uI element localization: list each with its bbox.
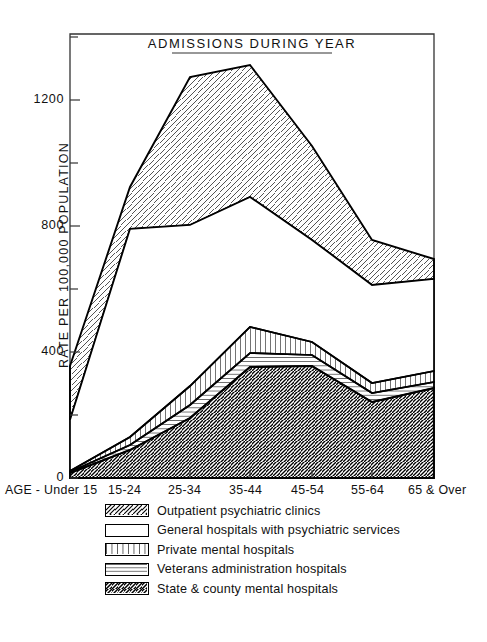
chart-legend: Outpatient psychiatric clinics General h… — [105, 501, 435, 599]
legend-item-state-and-county-mental-hospitals: State & county mental hospitals — [105, 579, 435, 599]
y-tick-label-1200: 1200 — [8, 92, 64, 106]
legend-swatch-diagonal-dense-backslash-icon — [105, 582, 149, 595]
y-tick-label-0: 0 — [8, 470, 64, 484]
x-tick-label-55-64: 55-64 — [351, 483, 384, 497]
legend-item-private-mental-hospitals: Private mental hospitals — [105, 540, 435, 560]
legend-item-general-hospitals-with-psychiatric-services: General hospitals with psychiatric servi… — [105, 521, 435, 541]
x-tick-label-under-15: Under 15 — [44, 483, 97, 497]
x-tick-label-15-24: 15-24 — [108, 483, 141, 497]
legend-item-veterans-administration-hospitals: Veterans administration hospitals — [105, 560, 435, 580]
legend-label: General hospitals with psychiatric servi… — [157, 523, 400, 537]
y-tick-label-800: 800 — [8, 218, 64, 232]
legend-item-outpatient-psychiatric-clinics: Outpatient psychiatric clinics — [105, 501, 435, 521]
legend-label: Outpatient psychiatric clinics — [157, 504, 320, 518]
x-tick-label-25-34: 25-34 — [168, 483, 201, 497]
legend-swatch-diagonal-sparse-slash-icon — [105, 504, 149, 517]
legend-swatch-vertical-lines-icon — [105, 543, 149, 556]
chart-title: ADMISSIONS DURING YEAR — [148, 36, 356, 51]
chart-page: RATE PER 100,000 POPULATION — [0, 0, 487, 642]
legend-label: State & county mental hospitals — [157, 582, 338, 596]
chart-title-group: ADMISSIONS DURING YEAR — [148, 36, 356, 53]
chart-area: RATE PER 100,000 POPULATION — [0, 0, 487, 500]
x-tick-label-35-44: 35-44 — [229, 483, 262, 497]
chart-svg: ADMISSIONS DURING YEAR — [0, 0, 487, 500]
y-tick-label-400: 400 — [8, 344, 64, 358]
legend-swatch-horizontal-lines-icon — [105, 563, 149, 576]
x-tick-label-45-54: 45-54 — [291, 483, 324, 497]
x-tick-label-65-and-over: 65 & Over — [408, 483, 466, 497]
legend-label: Private mental hospitals — [157, 543, 294, 557]
x-axis-prefix: AGE - — [5, 483, 40, 497]
legend-swatch-blank-icon — [105, 524, 149, 537]
legend-label: Veterans administration hospitals — [157, 562, 347, 576]
